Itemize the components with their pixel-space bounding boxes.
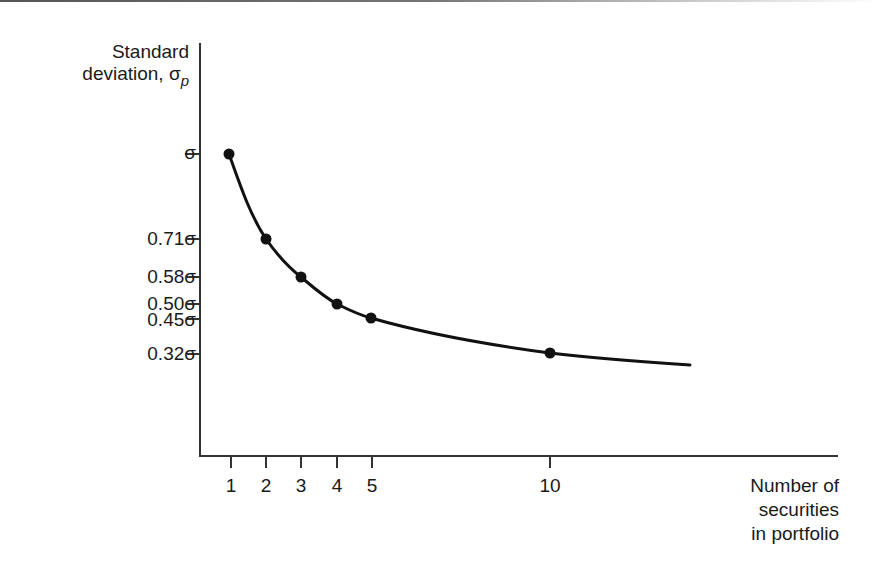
x-ticks	[231, 457, 550, 468]
data-point	[366, 313, 377, 324]
y-tick-label: σ	[184, 142, 196, 164]
y-axis-label: Standard deviation, σp	[82, 41, 189, 86]
data-point	[296, 272, 307, 283]
data-point	[224, 149, 235, 160]
x-axis-label: Number of securities in portfolio	[750, 474, 839, 546]
x-tick-label: 2	[246, 475, 286, 497]
std-dev-curve	[229, 154, 690, 365]
y-tick-label: 0.45σ	[147, 309, 196, 331]
y-tick-label: 0.58σ	[147, 266, 196, 288]
x-tick-label: 1	[211, 475, 251, 497]
chart-plot	[0, 0, 877, 579]
data-markers	[224, 149, 556, 359]
data-point	[261, 234, 272, 245]
data-point	[545, 348, 556, 359]
x-tick-label: 4	[317, 475, 357, 497]
x-tick-label: 5	[352, 475, 392, 497]
y-tick-label: 0.71σ	[147, 228, 196, 250]
y-tick-label: 0.32σ	[147, 343, 196, 365]
x-tick-label: 10	[530, 475, 570, 497]
data-point	[332, 299, 343, 310]
x-tick-label: 3	[281, 475, 321, 497]
